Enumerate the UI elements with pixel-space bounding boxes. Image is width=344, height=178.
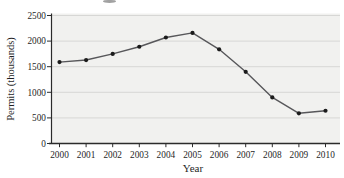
data-point [111, 52, 115, 56]
data-point [137, 45, 141, 49]
data-point [57, 60, 61, 64]
data-point [270, 95, 274, 99]
x-tick-label: 2008 [263, 150, 282, 160]
data-point [244, 70, 248, 74]
data-point [323, 109, 327, 113]
y-tick-label: 2500 [27, 11, 46, 21]
x-tick-label: 2007 [236, 150, 255, 160]
x-tick-label: 2004 [157, 150, 176, 160]
x-tick-label: 2000 [50, 150, 69, 160]
plot-area [52, 14, 341, 144]
y-tick-label: 2000 [27, 36, 46, 46]
y-tick-label: 1500 [27, 62, 46, 72]
x-tick-label: 2001 [77, 150, 96, 160]
y-tick-label: 0 [41, 139, 46, 149]
data-point [297, 111, 301, 115]
x-tick-label: 2006 [210, 150, 229, 160]
x-axis-title: Year [153, 161, 233, 176]
x-tick-label: 2003 [130, 150, 149, 160]
x-tick-label: 2002 [103, 150, 122, 160]
data-point [84, 58, 88, 62]
y-tick-label: 1000 [27, 88, 46, 98]
x-tick-label: 2010 [316, 150, 335, 160]
data-point [217, 47, 221, 51]
y-axis-title: Permits (thousands) [3, 14, 19, 144]
data-point [164, 35, 168, 39]
x-tick-label: 2009 [290, 150, 309, 160]
chart-canvas: 0500100015002000250020002001200220032004… [0, 0, 344, 178]
data-point [190, 31, 194, 35]
permits-line-chart-figure: 0500100015002000250020002001200220032004… [0, 0, 344, 178]
x-tick-label: 2005 [183, 150, 202, 160]
y-tick-label: 500 [32, 113, 46, 123]
